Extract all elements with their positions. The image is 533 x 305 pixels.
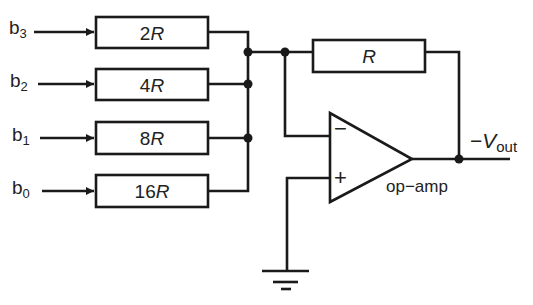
resistor-label-16r: 16R (96, 182, 208, 201)
bit-label-b0: b0 (12, 178, 30, 200)
junction-dot-bus-top (244, 48, 253, 57)
output-label: −Vout (470, 130, 517, 154)
inverting-input-symbol: − (334, 118, 347, 140)
bit-label-b2: b2 (10, 71, 28, 93)
junction-dot-8r (244, 134, 253, 143)
bit-label-b3: b3 (9, 18, 27, 40)
noninverting-input-symbol: + (334, 167, 347, 189)
feedback-resistor-label: R (313, 47, 425, 66)
summing-bus (208, 32, 248, 191)
resistor-label-2r: 2R (96, 24, 208, 43)
opamp-label: op−amp (386, 178, 448, 195)
circuit-wires (0, 0, 533, 305)
resistor-label-4r: 4R (96, 76, 208, 95)
resistor-label-8r: 8R (96, 129, 208, 148)
junction-dot-inverting-node (281, 48, 290, 57)
junction-dot-4r (244, 80, 253, 89)
dac-circuit-diagram: b3 b2 b1 b0 2R 4R 8R 16R R − + op−amp −V… (0, 0, 533, 305)
feedback-wire (425, 52, 459, 159)
bit-label-b1: b1 (12, 125, 30, 147)
junction-dot-output (455, 155, 464, 164)
noninverting-ground-wire (287, 178, 330, 271)
